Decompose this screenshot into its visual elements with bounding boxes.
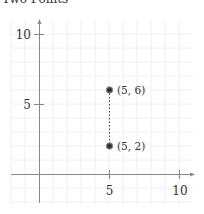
grid [11,20,193,205]
ticks [34,35,180,180]
point-5-2 [106,143,112,149]
x-tick-label-10: 10 [172,184,187,198]
x-tick-label-5: 5 [106,184,114,198]
y-axis-arrow-icon [38,19,42,24]
chart: 5 10 5 10 (5, 6) (5, 2) [0,0,204,214]
point-label-5-2: (5, 2) [117,140,145,152]
y-tick-label-10: 10 [16,28,31,42]
point-label-5-6: (5, 6) [117,84,145,96]
x-axis-arrow-icon [190,173,195,177]
point-5-6 [106,87,112,93]
y-tick-label-5: 5 [23,98,31,112]
